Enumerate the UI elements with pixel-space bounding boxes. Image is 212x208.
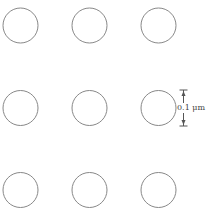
lattice-circle [3,8,38,43]
lattice-circle [3,91,38,126]
lattice-circle [72,173,107,208]
lattice-circle [72,91,107,126]
lattice-circle [141,8,176,43]
lattice-circle [141,91,176,126]
lattice-circle [72,8,107,43]
dimension-label: 0.1 μm [177,103,205,113]
lattice-circle [141,173,176,208]
lattice-circle [3,173,38,208]
